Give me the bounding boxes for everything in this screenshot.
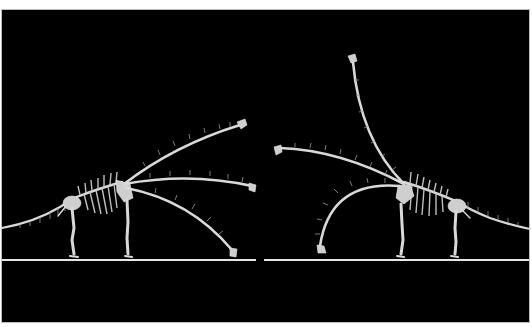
left-head-horizontal [249,183,256,192]
left-fore-leg [127,200,128,254]
right-hind-leg [455,211,456,254]
right-fore-leg [401,204,403,254]
right-skeleton [274,54,530,257]
skeleton-scene [0,0,532,327]
right-head-lowered [317,245,326,253]
left-neck-high [124,125,240,184]
right-head-vertical [348,54,357,63]
left-head-high [237,119,247,129]
left-head-lowered [230,248,237,257]
left-skeleton [2,119,256,257]
right-neck-lowered [320,186,400,247]
left-neck-lowered [126,188,232,250]
left-hind-leg [72,208,74,254]
left-neck-horizontal [124,178,252,186]
right-tail [458,202,530,229]
right-head-horizontal [274,145,282,155]
